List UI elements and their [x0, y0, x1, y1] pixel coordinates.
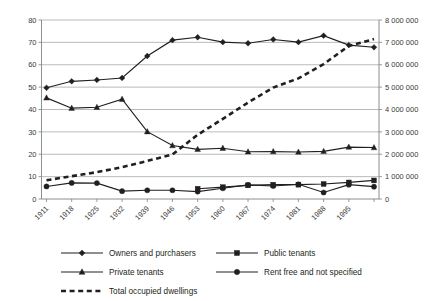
marker-circle: [296, 182, 301, 187]
y-axis-right-tick-label: 0: [385, 195, 389, 204]
marker-diamond: [220, 39, 226, 45]
marker-circle: [271, 183, 276, 188]
marker-diamond: [79, 250, 85, 256]
y-axis-right-tick-label: 8 000 000: [385, 16, 418, 25]
marker-diamond: [270, 37, 276, 43]
marker-square: [372, 178, 377, 183]
y-axis-right-tick-label: 6 000 000: [385, 60, 418, 69]
legend-item-public-tenants[interactable]: Public tenants: [216, 249, 315, 258]
y-axis-left-labels: 01020304050607080: [28, 16, 36, 204]
y-axis-left-tick-label: 50: [28, 83, 36, 92]
legend-item-label: Rent free and not specified: [264, 268, 362, 277]
legend-item-label: Private tenants: [109, 268, 164, 277]
chart-legend: Owners and purchasersPublic tenantsPriva…: [61, 249, 362, 296]
series-path: [47, 98, 375, 152]
marker-circle: [346, 182, 351, 187]
marker-triangle: [119, 96, 125, 101]
marker-circle: [321, 190, 326, 195]
legend-item-owners-and-purchasers[interactable]: Owners and purchasers: [61, 249, 196, 258]
marker-circle: [234, 269, 239, 274]
marker-diamond: [321, 33, 327, 39]
x-axis-tick-label: 1995: [335, 204, 353, 222]
x-axis-tick-label: 1946: [158, 204, 176, 222]
x-axis-tick-label: 1939: [133, 204, 151, 222]
y-axis-left-tick-label: 30: [28, 128, 36, 137]
series-private-tenants: [44, 95, 377, 154]
legend-item-rent-free-and-not-specified[interactable]: Rent free and not specified: [216, 268, 362, 277]
y-axis-left-tick-label: 10: [28, 172, 36, 181]
x-axis-tick-label: 1911: [33, 204, 51, 222]
chart-container: 01020304050607080 01 000 0002 000 0003 0…: [0, 0, 440, 301]
legend-item-label: Owners and purchasers: [109, 249, 196, 258]
y-axis-left-tick-label: 0: [32, 195, 36, 204]
marker-circle: [245, 182, 250, 187]
series-group: [44, 33, 377, 195]
series-owners-and-purchasers: [44, 33, 377, 91]
marker-triangle: [44, 95, 50, 100]
marker-circle: [69, 180, 74, 185]
marker-diamond: [371, 44, 377, 50]
legend-item-label: Total occupied dwellings: [109, 287, 197, 296]
y-axis-left-tick-label: 40: [28, 105, 36, 114]
y-axis-right-labels: 01 000 0002 000 0003 000 0004 000 0005 0…: [385, 16, 418, 204]
marker-circle: [170, 188, 175, 193]
y-axis-right-tick-label: 1 000 000: [385, 172, 418, 181]
marker-square: [321, 182, 326, 187]
x-axis-tick-label: 1932: [108, 204, 126, 222]
marker-diamond: [44, 85, 50, 91]
marker-circle: [195, 189, 200, 194]
marker-triangle: [170, 142, 176, 147]
x-axis-tick-label: 1967: [234, 204, 252, 222]
legend-item-private-tenants[interactable]: Private tenants: [61, 268, 164, 277]
axes-group: [39, 20, 383, 202]
y-axis-left-tick-label: 60: [28, 60, 36, 69]
y-axis-right-tick-label: 4 000 000: [385, 105, 418, 114]
y-axis-right-tick-label: 7 000 000: [385, 38, 418, 47]
marker-diamond: [69, 78, 75, 84]
x-axis-labels: 1911191819251932193919461953196019671974…: [33, 204, 353, 222]
marker-circle: [119, 189, 124, 194]
marker-circle: [94, 181, 99, 186]
marker-circle: [371, 184, 376, 189]
marker-circle: [44, 184, 49, 189]
x-axis-tick-label: 1918: [57, 204, 75, 222]
x-axis-tick-label: 1925: [83, 204, 101, 222]
y-axis-left-tick-label: 80: [28, 16, 36, 25]
legend-item-label: Public tenants: [264, 249, 315, 258]
y-axis-right-tick-label: 5 000 000: [385, 83, 418, 92]
marker-diamond: [195, 34, 201, 40]
x-axis-tick-label: 1981: [284, 204, 302, 222]
x-axis-tick-label: 1974: [259, 204, 277, 222]
housing-tenure-line-chart: 01020304050607080 01 000 0002 000 0003 0…: [0, 0, 440, 301]
x-axis-tick-label: 1988: [309, 204, 327, 222]
y-axis-left-tick-label: 70: [28, 38, 36, 47]
marker-square: [234, 250, 239, 255]
marker-diamond: [245, 40, 251, 46]
x-axis-tick-label: 1960: [209, 204, 227, 222]
marker-diamond: [296, 39, 302, 45]
legend-item-total-occupied-dwellings[interactable]: Total occupied dwellings: [61, 287, 197, 296]
marker-diamond: [94, 77, 100, 83]
y-axis-left-tick-label: 20: [28, 150, 36, 159]
x-axis-tick-label: 1953: [183, 204, 201, 222]
marker-circle: [220, 186, 225, 191]
y-axis-right-tick-label: 3 000 000: [385, 128, 418, 137]
y-axis-right-tick-label: 2 000 000: [385, 150, 418, 159]
marker-circle: [145, 188, 150, 193]
